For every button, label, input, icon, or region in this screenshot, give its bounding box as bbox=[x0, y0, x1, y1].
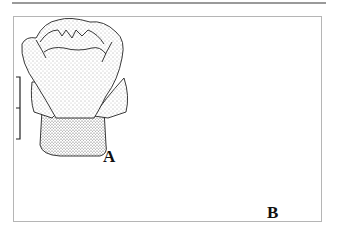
botanical-illustration bbox=[0, 0, 339, 236]
panel-label-a: A bbox=[103, 148, 115, 165]
panel-a-drawing bbox=[22, 18, 128, 156]
scale-bar-a bbox=[16, 77, 20, 139]
panel-label-b: B bbox=[267, 204, 278, 221]
